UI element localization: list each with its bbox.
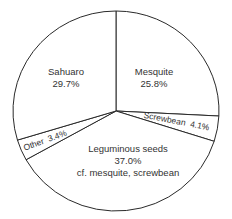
label-sahuaro-name: Sahuaro — [48, 66, 84, 77]
label-sahuaro-pct: 29.7% — [53, 78, 80, 89]
label-mesquite-pct: 25.8% — [141, 78, 168, 89]
pie-chart: Mesquite 25.8% Sahuaro 29.7% Screwbean 4… — [0, 0, 232, 219]
label-mesquite-name: Mesquite — [135, 66, 174, 77]
pie-slices — [13, 11, 219, 211]
label-leguminous-pct: 37.0% — [115, 155, 142, 166]
slice-mesquite — [116, 11, 219, 116]
label-leguminous-note: cf. mesquite, screwbean — [77, 167, 179, 178]
label-leguminous-name: Leguminous seeds — [88, 143, 168, 154]
